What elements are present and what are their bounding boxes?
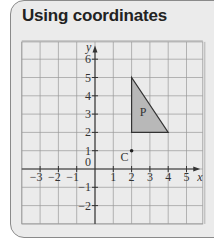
grid-lines (22, 41, 205, 224)
x-tick-label: −1 (66, 170, 79, 184)
x-tick-label: 1 (110, 170, 116, 184)
y-axis-label: y (85, 40, 92, 54)
x-tick-label: 3 (147, 170, 153, 184)
y-tick-label: 5 (85, 71, 91, 85)
x-tick-label: −2 (48, 170, 61, 184)
x-tick-label: −3 (30, 170, 43, 184)
x-tick-label: 4 (165, 170, 171, 184)
y-axis-arrow-icon (93, 45, 98, 52)
x-axis-label: x (196, 170, 203, 184)
axis-labels: −3−2−112345654321−1−20xy (30, 40, 204, 212)
point-label: C (121, 150, 129, 164)
y-tick-label: 2 (85, 125, 91, 139)
x-tick-label: 5 (184, 170, 190, 184)
x-tick-label: 2 (129, 170, 135, 184)
origin-label: 0 (85, 155, 91, 169)
y-tick-label: 4 (85, 89, 91, 103)
axes (22, 45, 200, 223)
shape-label: P (140, 105, 147, 119)
y-tick-label: −2 (78, 199, 91, 213)
y-tick-label: 3 (85, 107, 91, 121)
y-tick-label: −1 (78, 180, 91, 194)
coordinate-grid: PC −3−2−112345654321−1−20xy (0, 0, 214, 241)
point-c (130, 149, 134, 153)
